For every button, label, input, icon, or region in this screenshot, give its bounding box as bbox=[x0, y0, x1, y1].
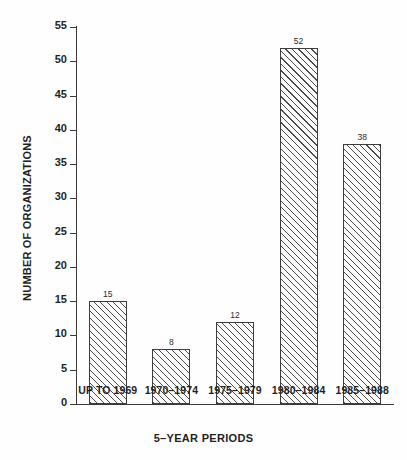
y-tick-mark bbox=[70, 267, 76, 268]
y-axis-line bbox=[76, 26, 77, 405]
x-category-label: UP TO 1969 bbox=[78, 384, 137, 396]
y-tick-mark bbox=[70, 198, 76, 199]
y-tick-mark bbox=[70, 27, 76, 28]
bar-value-label: 12 bbox=[230, 310, 239, 320]
y-tick-label: 5 bbox=[61, 362, 67, 374]
bar: 52 bbox=[280, 48, 318, 404]
bar-chart: NUMBER OF ORGANIZATIONS 0510152025303540… bbox=[0, 0, 407, 460]
plot-area: 0510152025303540455055 158125238 bbox=[76, 26, 394, 405]
bar-value-label: 15 bbox=[103, 289, 112, 299]
y-tick-label: 45 bbox=[55, 88, 67, 100]
y-tick-label: 30 bbox=[55, 190, 67, 202]
y-tick-mark bbox=[70, 130, 76, 131]
x-category-label: 1985–1988 bbox=[335, 384, 388, 396]
y-tick-label: 55 bbox=[55, 19, 67, 31]
bar-value-label: 52 bbox=[294, 36, 303, 46]
x-category-label: 1980–1984 bbox=[272, 384, 325, 396]
x-category-label: 1970–1974 bbox=[145, 384, 198, 396]
y-tick-mark bbox=[70, 404, 76, 405]
y-tick-mark bbox=[70, 233, 76, 234]
y-tick-label: 35 bbox=[55, 156, 67, 168]
y-tick-label: 15 bbox=[55, 293, 67, 305]
bar: 38 bbox=[343, 144, 381, 404]
y-tick-mark bbox=[70, 61, 76, 62]
y-tick-label: 20 bbox=[55, 259, 67, 271]
y-tick-label: 25 bbox=[55, 225, 67, 237]
y-tick-label: 40 bbox=[55, 122, 67, 134]
y-tick-mark bbox=[70, 96, 76, 97]
x-category-label: 1975–1979 bbox=[208, 384, 261, 396]
y-tick-mark bbox=[70, 301, 76, 302]
y-tick-mark bbox=[70, 370, 76, 371]
x-axis-title: 5–YEAR PERIODS bbox=[0, 432, 407, 444]
y-tick-label: 50 bbox=[55, 53, 67, 65]
bar-value-label: 8 bbox=[169, 337, 174, 347]
bar-value-label: 38 bbox=[357, 132, 366, 142]
y-axis-title: NUMBER OF ORGANIZATIONS bbox=[21, 103, 33, 333]
y-tick-label: 10 bbox=[55, 327, 67, 339]
y-tick-mark bbox=[70, 164, 76, 165]
y-tick-mark bbox=[70, 335, 76, 336]
x-axis-line bbox=[76, 404, 394, 405]
y-tick-label: 0 bbox=[61, 396, 67, 408]
